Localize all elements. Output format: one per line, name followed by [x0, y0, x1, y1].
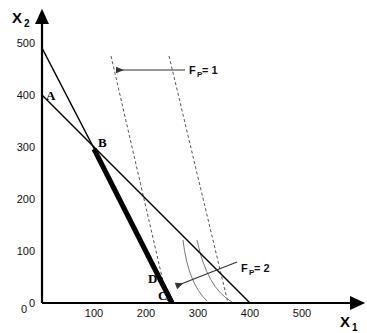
x-axis-title: X 1: [340, 313, 358, 333]
x-tick-300: 300: [189, 307, 207, 319]
y-tick-400: 400: [17, 89, 35, 101]
constraint-line-2: [42, 95, 250, 303]
y-tick-0: 0: [29, 297, 35, 309]
linear-programming-chart: X 1 X 2 0 100 200 300 400 500 0 100 200 …: [0, 0, 367, 333]
annotation-arrow-fp2: [176, 262, 237, 286]
y-axis-title: X 2: [12, 9, 30, 29]
y-axis-title-subscript: 2: [24, 18, 30, 29]
isoprofit-line-fp1: [111, 56, 168, 303]
y-tick-500: 500: [17, 37, 35, 49]
y-axis-title-base: X: [12, 9, 22, 26]
annotation-fp1-value: = 1: [202, 64, 218, 76]
x-tick-labels: 0 100 200 300 400 500: [21, 303, 311, 319]
y-tick-200: 200: [17, 193, 35, 205]
annotation-fp2-value: = 2: [254, 262, 270, 274]
x-tick-0: 0: [21, 303, 27, 315]
arc-curves-group: [183, 240, 232, 302]
isoprofit-line-fp2: [169, 56, 228, 303]
x-axis-title-base: X: [340, 313, 350, 330]
x-tick-500: 500: [293, 307, 311, 319]
chart-canvas: X 1 X 2 0 100 200 300 400 500 0 100 200 …: [0, 0, 367, 333]
x-tick-200: 200: [137, 307, 155, 319]
y-tick-300: 300: [17, 141, 35, 153]
annotation-fp1: F P = 1: [116, 64, 218, 79]
y-tick-100: 100: [17, 245, 35, 257]
arc-inner-curve: [183, 240, 207, 301]
annotation-fp2-base: F: [241, 262, 248, 274]
x-tick-400: 400: [241, 307, 259, 319]
vertex-label-a: A: [46, 88, 56, 103]
vertex-label-c: C: [158, 288, 167, 303]
isoprofit-lines-group: [111, 56, 228, 303]
annotation-fp1-base: F: [189, 64, 196, 76]
vertex-label-b: B: [98, 135, 107, 150]
x-axis-title-subscript: 1: [352, 322, 358, 333]
axes-group: [42, 22, 352, 303]
efficient-frontier-segment: [94, 149, 172, 303]
constraint-lines-group: [42, 48, 250, 303]
x-tick-100: 100: [85, 307, 103, 319]
vertex-label-d: D: [148, 271, 157, 286]
vertex-labels-group: A B D C: [46, 88, 167, 303]
y-tick-labels: 0 100 200 300 400 500: [17, 37, 35, 309]
